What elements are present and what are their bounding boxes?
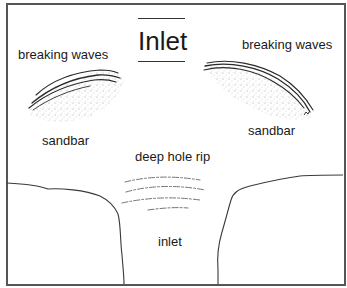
title-rule-bottom: [138, 61, 185, 62]
label-deep-hole-rip: deep hole rip: [135, 150, 210, 163]
label-sandbar-right: sandbar: [248, 124, 295, 137]
label-inlet: inlet: [158, 235, 182, 248]
label-breaking-waves-left: breaking waves: [18, 48, 108, 61]
label-breaking-waves-right: breaking waves: [242, 38, 332, 51]
rip-current-dashed-lines: [122, 177, 205, 210]
right-shoreline: [218, 175, 343, 284]
left-shoreline: [7, 183, 124, 284]
title-rule-top: [138, 18, 185, 19]
label-sandbar-left: sandbar: [42, 134, 89, 147]
diagram-title: Inlet: [138, 28, 187, 54]
